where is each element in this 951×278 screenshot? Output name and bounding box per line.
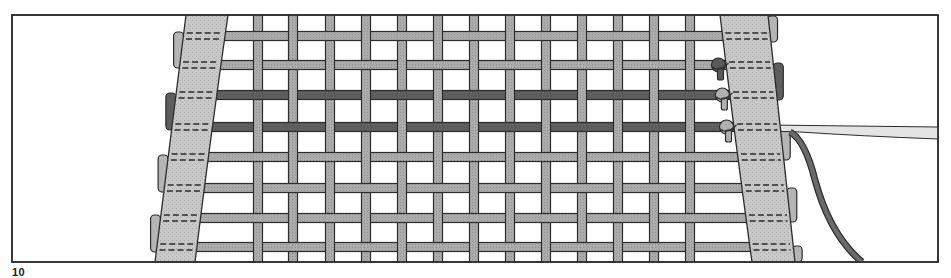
vertical-strand: [506, 15, 515, 262]
vertical-strand: [289, 15, 298, 262]
vertical-strand: [434, 15, 443, 262]
vertical-strand: [578, 15, 587, 262]
vertical-strand: [542, 15, 551, 262]
vertical-strand: [362, 15, 371, 262]
vertical-strand: [650, 15, 659, 262]
figure-caption: 10: [12, 266, 25, 278]
vertical-strand: [686, 15, 695, 262]
vertical-strand: [326, 15, 335, 262]
vertical-strand: [470, 15, 479, 262]
vertical-strand: [254, 15, 263, 262]
vertical-strand: [398, 15, 407, 262]
vertical-strand: [614, 15, 623, 262]
